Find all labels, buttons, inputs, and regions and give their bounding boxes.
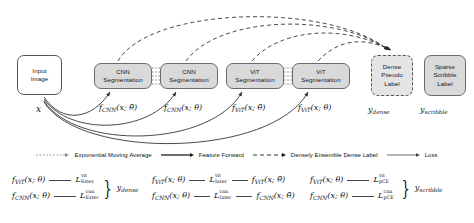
label-f-cnn-teacher-sub: CNN [102,107,116,113]
equation-connector [347,180,369,181]
node-sparse-label-line1: Sparse [435,63,455,71]
equation-connector [194,196,210,197]
equation-loss: LcnnExter [80,191,98,200]
node-vit-segmentation-student[interactable]: ViT Segmentation [292,63,350,89]
node-cnn-segmentation-student[interactable]: CNN Segmentation [160,63,218,89]
equation-fn: fCNN(x; θ) [12,191,50,200]
equation-fn-subscript: CNN [15,195,29,201]
equation-loss: LcnnInter [214,191,232,200]
equation-loss-subscript: pCE [379,179,389,184]
legend-swatch-dashed [253,152,287,158]
node-vit-teacher-line2: Segmentation [235,76,274,84]
equation-row: fViT(x; θ) LvitpCE [310,174,396,185]
equation-loss-subscript: Exter [86,195,99,200]
equation-target: yscribble [415,183,443,192]
label-y-scribble: yscribble [420,105,448,114]
equation-connector [352,196,374,197]
label-f-vit-student-sub: ViT [301,107,311,113]
equation-target: ydense [117,183,139,192]
legend-label-densely-ensemble-dense-label: Densely Ensemble Dense Label [291,152,378,158]
node-sparse-scribble-label[interactable]: Sparse Scribble Label [424,55,466,96]
label-y-scribble-var: y [420,105,425,114]
equation-loss-subscript: Inter [220,195,232,200]
edge-input-to-vit-student [44,92,308,144]
feature-forward-edges [44,92,308,144]
equation-connector [236,196,252,197]
equation-fn-arg: (x; θ) [29,191,50,200]
label-f-cnn-teacher: fCNN(x; θ̄) [99,103,137,112]
equation-connector [49,180,71,181]
equation-fn-subscript: ViT [15,179,25,185]
node-dense-label-line3: Label [384,80,400,88]
equation-fn-subscript: ViT [155,179,165,185]
node-cnn-student-line2: Segmentation [169,76,208,84]
equation-rhs-arg: (x; θ̄) [274,191,295,200]
edge-cnn-teacher-to-dense [118,17,388,61]
node-input-image-line1: Input [32,67,46,75]
node-sparse-label-line2: Scribble [433,71,456,79]
node-cnn-student-line1: CNN [182,68,196,76]
equation-rhs-fn: fCNN(x; θ̄) [256,191,294,200]
equation-fn-arg: (x; θ) [165,175,186,184]
equation-rhs-subscript: CNN [259,195,273,201]
equation-fn: fViT(x; θ) [152,175,185,184]
equation-loss: LvitExter [75,175,93,184]
equation-loss-subscript: pCE [384,195,394,200]
equation-fn-arg: (x; θ) [323,175,344,184]
equation-loss-subscript: Inter [215,179,227,184]
equation-group-pce: fViT(x; θ) LvitpCE fCNN(x; θ) LcnnpCE } … [310,174,442,201]
node-input-image[interactable]: Input Image [17,55,62,95]
equation-loss-superscript: vit [215,173,221,178]
equation-loss: LvitpCE [373,175,391,184]
equation-loss-superscript: cnn [220,189,229,194]
legend-swatch-solid [161,152,195,158]
node-cnn-teacher-line2: Segmentation [103,76,142,84]
equation-loss-superscript: cnn [86,189,95,194]
node-vit-teacher-line1: ViT [250,68,259,76]
equation-fn-arg: (x; θ) [327,191,348,200]
equation-group-pce-rows: fViT(x; θ) LvitpCE fCNN(x; θ) LcnnpCE [310,174,396,201]
edge-vit-teacher-to-dense [252,33,390,61]
label-f-cnn-student: fCNN(x; θ) [164,103,202,112]
label-input-variable: x [36,104,41,114]
equation-loss: LvitInter [209,175,227,184]
equation-fn-subscript: ViT [313,179,323,185]
node-dense-label-line1: Dense [383,63,401,71]
label-f-vit-student-arg: (x; θ) [311,103,332,112]
equation-group-interior-rows: fViT(x; θ) LvitInter fViT(x; θ̄) fCNN(x;… [152,174,295,201]
label-f-vit-student: fViT(x; θ) [298,103,331,112]
label-y-dense: ydense [368,105,390,114]
equation-fn: fCNN(x; θ) [152,191,190,200]
label-y-scribble-sub: scribble [425,109,448,115]
equation-row: fViT(x; θ) LvitInter fViT(x; θ̄) [152,174,295,185]
equation-loss-subscript: Exter [81,179,94,184]
node-vit-segmentation-teacher[interactable]: ViT Segmentation [226,63,284,89]
node-dense-label-line2: Pseudo [381,71,403,79]
equation-group-exterior-rows: fViT(x; θ) LvitExter fCNN(x; θ) LcnnExte… [12,174,98,201]
equation-fn-arg: (x; θ) [25,175,46,184]
loss-equations: fViT(x; θ) LvitExter fCNN(x; θ) LcnnExte… [0,168,474,223]
equation-row: fViT(x; θ) LvitExter [12,174,98,185]
equation-fn-subscript: CNN [313,195,327,201]
label-f-vit-teacher-sub: ViT [235,107,245,113]
equation-group-interior: fViT(x; θ) LvitInter fViT(x; θ̄) fCNN(x;… [152,174,295,201]
equation-connector [54,196,76,197]
legend-item-feature-forward: Feature Forward [161,152,244,158]
legend-item-densely-ensemble-dense-label: Densely Ensemble Dense Label [253,152,378,158]
equation-fn: fViT(x; θ) [12,175,45,184]
equation-rhs-arg: (x; θ̄) [264,175,285,184]
equation-row: fCNN(x; θ) LcnnInter fCNN(x; θ̄) [152,190,295,201]
legend-label-loss: Loss [425,152,438,158]
node-dense-pseudo-label[interactable]: Dense Pseudo Label [371,55,413,96]
equation-rhs-subscript: ViT [255,179,265,185]
equation-target-subscript: dense [121,187,138,193]
node-input-image-line2: Image [31,75,49,83]
dense-ensemble-edges [118,17,391,61]
label-f-vit-teacher-arg: (x; θ̄) [245,103,266,112]
equation-group-exterior: fViT(x; θ) LvitExter fCNN(x; θ) LcnnExte… [12,174,138,201]
node-cnn-segmentation-teacher[interactable]: CNN Segmentation [94,63,152,89]
legend-item-exponential-moving-average: Exponential Moving Average [36,152,151,158]
label-y-dense-sub: dense [373,109,390,115]
equation-rhs-fn: fViT(x; θ̄) [252,175,285,184]
label-f-vit-teacher: fViT(x; θ̄) [232,103,265,112]
